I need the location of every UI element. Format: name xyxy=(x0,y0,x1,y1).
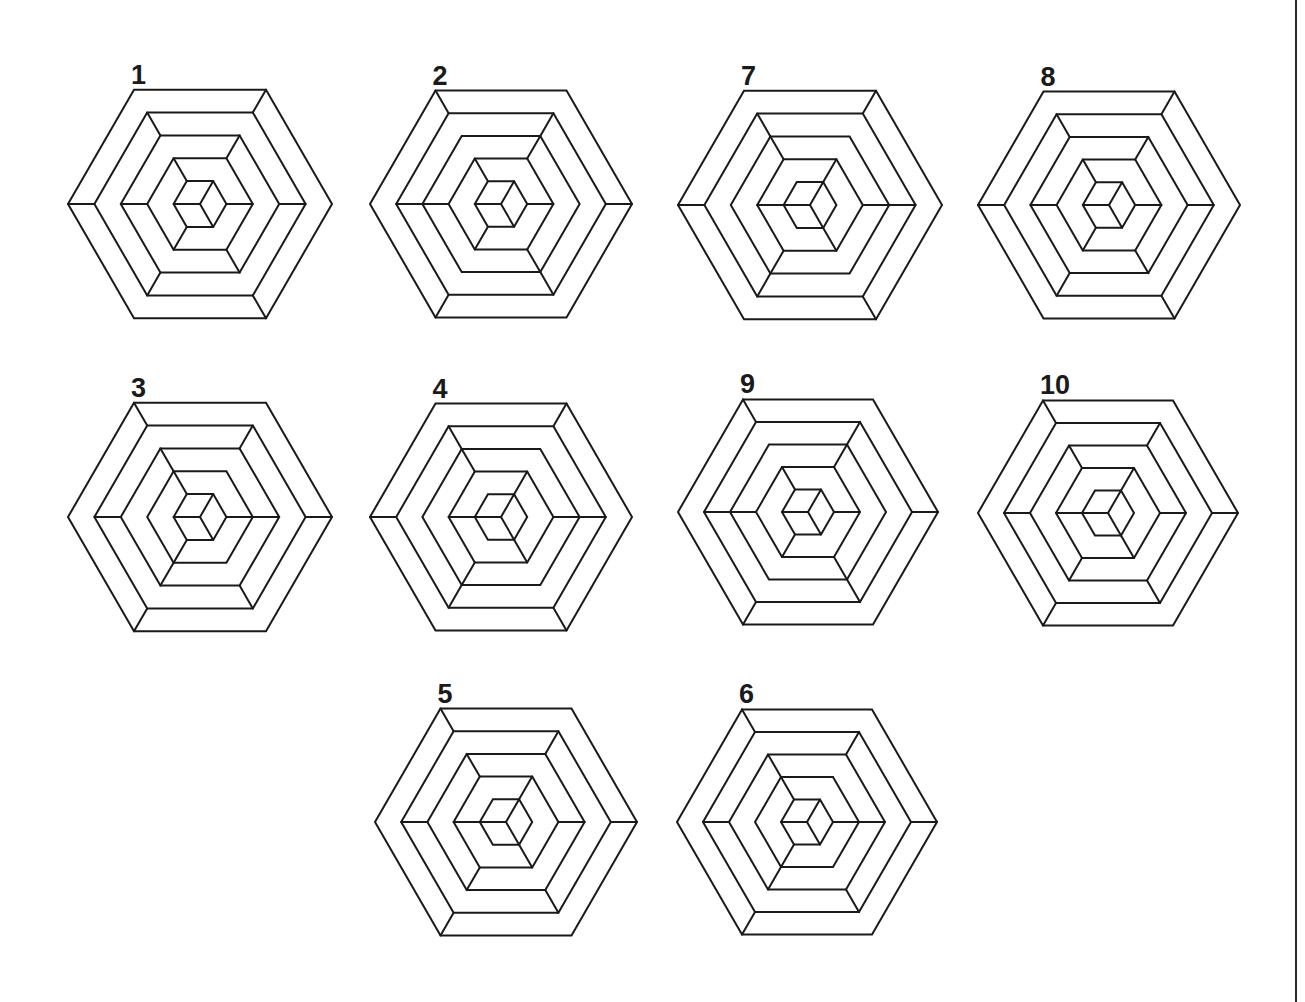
ring-connector xyxy=(134,403,147,426)
center-cube-spoke xyxy=(808,512,821,535)
ring-connector xyxy=(1083,160,1096,183)
center-cube-spoke xyxy=(808,490,821,513)
ring-connector xyxy=(834,445,847,468)
ring-connector xyxy=(253,90,266,113)
ring-connector xyxy=(1135,250,1148,273)
hexagon-puzzle-figure: 12783491056 xyxy=(0,0,1305,1002)
center-cube-spoke xyxy=(810,182,823,205)
page-right-border xyxy=(1295,0,1297,1002)
ring-connector xyxy=(781,777,794,800)
hexagon-figure-9: 9 xyxy=(678,369,938,624)
ring-connector xyxy=(743,602,756,625)
ring-connector xyxy=(770,136,783,159)
ring-connector xyxy=(519,845,532,868)
ring-connector xyxy=(174,158,187,181)
center-cube-spoke xyxy=(501,181,514,204)
hexagon-figure-4: 4 xyxy=(370,374,632,631)
ring-connector xyxy=(768,867,781,890)
ring-connector xyxy=(449,426,462,449)
ring-connector xyxy=(823,228,836,251)
ring-connector xyxy=(147,273,160,296)
ring-connector xyxy=(545,890,558,913)
ring-connector xyxy=(863,91,876,114)
ring-connector xyxy=(742,709,755,732)
center-cube-spoke xyxy=(506,822,519,845)
hexagon-figure-1: 1 xyxy=(68,60,332,319)
ring-connector xyxy=(240,586,253,609)
ring-connector xyxy=(467,754,480,777)
ring-connector xyxy=(553,608,566,631)
ring-connector xyxy=(147,113,160,136)
center-cube-spoke xyxy=(810,205,823,228)
ring-connector xyxy=(514,540,527,563)
center-cube-spoke xyxy=(200,181,213,204)
ring-connector xyxy=(553,404,566,427)
ring-connector xyxy=(742,912,755,935)
hexagon-number-label: 6 xyxy=(739,679,754,709)
ring-connector xyxy=(1057,273,1070,296)
center-cube-spoke xyxy=(200,494,213,517)
hexagon-number-label: 10 xyxy=(1040,370,1070,400)
center-cube-spoke xyxy=(1108,513,1121,536)
ring-connector xyxy=(847,422,860,445)
hexagon-number-label: 3 xyxy=(131,373,146,403)
hexagon-layer: 12783491056 xyxy=(68,60,1240,936)
hexagon-number-label: 1 xyxy=(131,60,146,90)
ring-connector xyxy=(863,297,876,320)
hexagon-figure-10: 10 xyxy=(978,370,1238,625)
ring-connector xyxy=(134,609,147,632)
ring-connector xyxy=(160,563,173,586)
center-cube-spoke xyxy=(1108,491,1121,514)
ring-connector xyxy=(160,448,173,471)
ring-connector xyxy=(1069,446,1082,469)
ring-connector xyxy=(436,91,449,114)
hexagon-number-label: 2 xyxy=(433,61,448,91)
ring-connector xyxy=(1121,468,1134,491)
ring-connector xyxy=(441,913,454,936)
ring-connector xyxy=(174,540,187,563)
ring-connector xyxy=(475,159,488,182)
ring-connector xyxy=(846,890,859,913)
ring-connector xyxy=(174,471,187,494)
ring-connector xyxy=(770,251,783,274)
center-cube-spoke xyxy=(501,517,514,540)
ring-connector xyxy=(240,426,253,449)
ring-connector xyxy=(514,472,527,495)
hexagon-number-label: 8 xyxy=(1041,62,1056,92)
ring-connector xyxy=(846,732,859,755)
ring-connector xyxy=(436,295,449,318)
hexagon-number-label: 5 xyxy=(438,679,453,709)
ring-connector xyxy=(1147,581,1160,604)
center-cube-spoke xyxy=(501,204,514,227)
ring-connector xyxy=(519,777,532,800)
ring-connector xyxy=(527,249,540,272)
hexagon-figure-6: 6 xyxy=(677,679,937,934)
ring-connector xyxy=(174,227,187,250)
ring-connector xyxy=(1057,114,1070,137)
ring-connector xyxy=(1147,423,1160,446)
ring-connector xyxy=(1043,603,1056,626)
ring-connector xyxy=(1069,558,1082,581)
hexagon-figure-8: 8 xyxy=(978,62,1240,319)
ring-connector xyxy=(782,535,795,558)
ring-connector xyxy=(743,399,756,422)
ring-connector xyxy=(545,731,558,754)
ring-connector xyxy=(253,296,266,319)
ring-connector xyxy=(441,709,454,732)
ring-connector xyxy=(449,585,462,608)
ring-connector xyxy=(782,467,795,490)
center-cube-spoke xyxy=(1109,205,1122,228)
ring-connector xyxy=(834,557,847,580)
ring-connector xyxy=(527,136,540,159)
ring-connector xyxy=(1161,92,1174,115)
ring-connector xyxy=(467,867,480,890)
center-cube-spoke xyxy=(501,494,514,517)
ring-connector xyxy=(462,562,475,585)
center-cube-spoke xyxy=(807,822,820,845)
center-cube-spoke xyxy=(807,800,820,823)
ring-connector xyxy=(1043,400,1056,423)
ring-connector xyxy=(540,272,553,295)
center-cube-spoke xyxy=(1109,182,1122,205)
ring-connector xyxy=(781,845,794,868)
ring-connector xyxy=(226,250,239,273)
